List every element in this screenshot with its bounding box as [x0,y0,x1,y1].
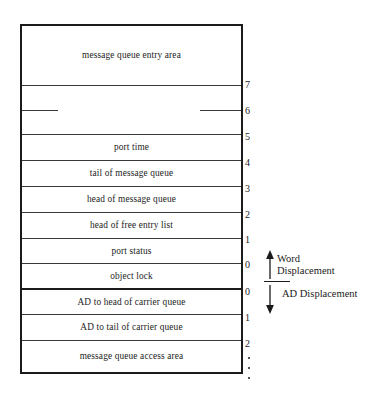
offset-label-4: 4 [245,158,263,168]
row-tail-of-message-queue: tail of message queue [22,160,241,186]
structure-rows: message queue entry area port time tail … [22,26,241,372]
ad-displacement-annotation: AD Displacement [282,288,358,300]
offset-label-1-ad: 1 [245,313,263,323]
offset-label-3: 3 [245,184,263,194]
port-object-layout-diagram: message queue entry area port time tail … [0,0,371,409]
row-offset-7 [22,85,241,111]
ad-displacement-line1: AD Displacement [282,288,358,300]
row-label: head of free entry list [90,220,173,230]
row-message-queue-entry-area: message queue entry area [22,26,241,85]
offset-label-2-ad: 2 [245,339,263,349]
row-label: head of message queue [87,194,176,204]
word-displacement-line1: Word [277,253,335,265]
row-label: port status [111,246,151,256]
down-arrow-icon [264,284,276,314]
offset-label-7: 7 [245,80,263,90]
row-label: tail of message queue [90,168,173,178]
row-message-queue-access-area: message queue access area [22,340,241,372]
row-port-status: port status [22,238,241,263]
offset-label-2-word: 2 [245,210,263,220]
offset-number-column: 7 6 5 4 3 2 1 0 0 1 2 [245,24,267,374]
row-label: port time [114,142,149,152]
offset-label-1: 1 [245,235,263,245]
up-arrow-icon [264,250,276,280]
offset-label-0-word: 0 [245,260,263,270]
word-displacement-line2: Displacement [277,265,335,277]
continuation-dot-3 [248,377,250,379]
offset-label-0-ad: 0 [245,287,263,297]
row-object-lock: object lock [22,263,241,288]
broken-divider-right-segment [200,110,241,111]
row-ad-to-head-of-carrier-queue: AD to head of carrier queue [22,288,241,314]
row-head-of-message-queue: head of message queue [22,186,241,212]
continuation-dot-1 [248,357,250,359]
continuation-dot-2 [248,367,250,369]
row-port-time: port time [22,134,241,160]
structure-box: message queue entry area port time tail … [20,24,243,374]
row-label: message queue entry area [82,50,181,60]
row-label: AD to head of carrier queue [77,297,185,307]
row-head-of-free-entry-list: head of free entry list [22,212,241,238]
row-label: object lock [110,271,153,281]
word-displacement-annotation: Word Displacement [277,253,335,278]
row-label: AD to tail of carrier queue [80,322,182,332]
broken-divider-left-segment [22,110,58,111]
offset-label-5: 5 [245,132,263,142]
offset-label-6: 6 [245,106,263,116]
displacement-divider-rule [264,281,290,282]
row-offset-6 [22,111,241,134]
row-ad-to-tail-of-carrier-queue: AD to tail of carrier queue [22,314,241,340]
row-label: message queue access area [80,351,184,361]
